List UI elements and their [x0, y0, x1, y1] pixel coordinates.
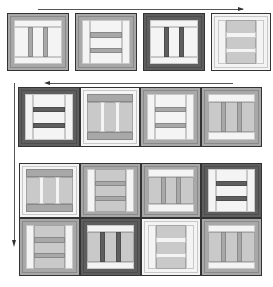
horizontal-bar-bottom [156, 253, 186, 258]
vertical-bar-right [237, 232, 242, 261]
left-rail [87, 169, 95, 211]
vertical-bar-right [176, 177, 181, 205]
vertical-bar-right [43, 27, 48, 56]
top-arrow-line [38, 9, 243, 10]
center-field [208, 232, 255, 261]
quilt-block-r3-c3 [141, 163, 201, 218]
vertical-bar-left [100, 232, 105, 261]
vertical-bar-right [179, 27, 184, 56]
horizontal-bar-top [34, 237, 65, 242]
quilt-block-r2-c1 [18, 87, 80, 147]
horizontal-bar-bottom [226, 48, 256, 53]
quilt-block-r4-c3 [141, 218, 201, 276]
horizontal-bar-top [156, 237, 186, 242]
top-rail [14, 20, 62, 28]
center-field [33, 94, 64, 140]
left-rail [25, 94, 33, 140]
bottom-rail [148, 204, 194, 211]
center-field [150, 27, 198, 56]
bottom-rail [87, 132, 133, 140]
horizontal-bar-bottom [216, 196, 247, 201]
center-field [148, 177, 194, 205]
left-rail [148, 225, 156, 270]
bottom-rail [87, 262, 134, 270]
center-field [14, 27, 62, 56]
quilt-block-r4-c4 [201, 218, 262, 276]
vertical-bar-left [39, 177, 44, 205]
quilt-block-r2-c2 [80, 87, 140, 147]
right-rail [122, 20, 130, 65]
quilt-block-r1-c3 [143, 13, 205, 71]
right-rail [247, 169, 255, 211]
arrow-down-icon [12, 240, 16, 247]
top-rail [150, 20, 198, 28]
bottom-rail [208, 262, 255, 270]
horizontal-bar-top [90, 32, 121, 37]
center-field [216, 169, 247, 211]
vertical-bar-right [116, 232, 121, 261]
quilt-block-r1-c1 [7, 13, 69, 71]
center-field [87, 232, 134, 261]
center-field [34, 225, 65, 270]
center-field [155, 94, 186, 140]
vertical-bar-right [55, 177, 60, 205]
arrow-right-icon [238, 7, 244, 11]
right-rail [65, 94, 73, 140]
horizontal-bar-bottom [95, 196, 126, 201]
center-field [87, 102, 133, 132]
vertical-bar-left [100, 102, 105, 132]
horizontal-bar-top [216, 181, 247, 186]
top-rail [148, 169, 194, 176]
bottom-rail [150, 57, 198, 65]
quilt-block-r1-c2 [75, 13, 137, 71]
quilt-block-r4-c2 [80, 218, 141, 276]
horizontal-bar-top [226, 32, 256, 37]
horizontal-bar-bottom [155, 123, 186, 128]
left-rail [82, 20, 90, 65]
center-field [26, 177, 73, 205]
top-rail [26, 169, 73, 176]
right-rail [256, 20, 264, 65]
bottom-rail [26, 204, 73, 211]
left-arrow-line [14, 83, 15, 243]
center-field [90, 20, 121, 65]
center-field [156, 225, 186, 270]
center-field [95, 169, 126, 211]
arrow-left-icon [44, 81, 50, 85]
top-rail [208, 225, 255, 233]
top-rail [87, 225, 134, 233]
horizontal-bar-bottom [90, 48, 121, 53]
left-rail [147, 94, 155, 140]
right-rail [126, 169, 134, 211]
left-rail [208, 169, 216, 211]
right-rail [65, 225, 73, 270]
center-field [208, 102, 255, 132]
horizontal-bar-bottom [33, 123, 64, 128]
horizontal-bar-top [155, 107, 186, 112]
right-rail [186, 94, 194, 140]
quilt-block-r3-c1 [19, 163, 80, 218]
row2-arrow-line [48, 83, 233, 84]
vertical-bar-right [115, 102, 120, 132]
top-rail [208, 94, 255, 102]
quilt-block-r2-c4 [201, 87, 262, 147]
quilt-block-r3-c2 [80, 163, 141, 218]
left-rail [26, 225, 34, 270]
quilt-block-r4-c1 [19, 218, 80, 276]
quilt-block-r3-c4 [201, 163, 262, 218]
horizontal-bar-top [95, 181, 126, 186]
top-rail [87, 94, 133, 102]
bottom-rail [14, 57, 62, 65]
right-rail [186, 225, 194, 270]
vertical-bar-left [161, 177, 166, 205]
quilt-block-r2-c3 [140, 87, 201, 147]
vertical-bar-right [237, 102, 242, 132]
bottom-rail [208, 132, 255, 140]
horizontal-bar-bottom [34, 253, 65, 258]
quilt-block-r1-c4 [211, 13, 271, 71]
left-rail [218, 20, 226, 65]
vertical-bar-left [221, 232, 226, 261]
vertical-bar-left [28, 27, 33, 56]
vertical-bar-left [164, 27, 169, 56]
vertical-bar-left [221, 102, 226, 132]
